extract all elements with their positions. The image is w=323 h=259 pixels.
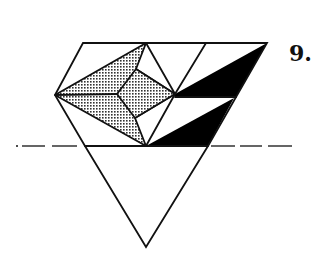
kite-spine [55,94,117,95]
origami-diagram [0,0,323,259]
step-number-label: 9. [289,40,312,66]
